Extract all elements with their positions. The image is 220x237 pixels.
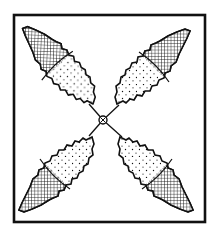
leaf-top-left [20,26,98,104]
center-hub-icon [99,116,107,124]
leaf-ornament-illustration [0,0,220,237]
leaf-bottom-left [19,137,94,212]
leaf-bottom-right [118,137,193,212]
leaf-top-right [115,29,190,104]
